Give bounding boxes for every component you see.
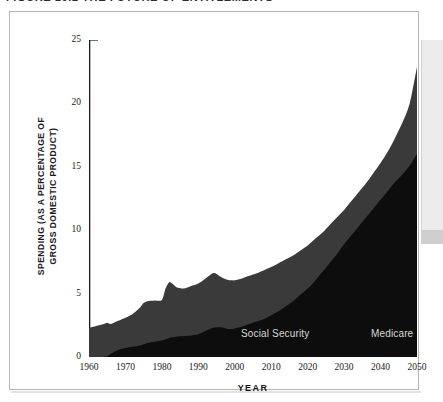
x-tick-label: 2010: [251, 362, 291, 372]
x-tick-label: 2030: [324, 362, 364, 372]
series-label-social-security: Social Security: [241, 328, 309, 339]
series-area-paths: [89, 67, 417, 357]
right-page-panel-shadow: [421, 230, 443, 244]
x-axis-label: YEAR: [89, 383, 417, 393]
y-tick-label: 5: [55, 288, 81, 298]
area-chart-svg: [89, 40, 417, 357]
y-axis-label-line-2: GROSS DOMESTIC PRODUCT): [47, 72, 59, 320]
y-axis-label-line-1: SPENDING (AS A PERCENTAGE OF: [36, 117, 46, 275]
y-axis-label-container: SPENDING (AS A PERCENTAGE OF GROSS DOMES…: [22, 72, 62, 322]
y-tick-label: 15: [55, 161, 81, 171]
x-tick-label: 1960: [69, 362, 109, 372]
plot-area: Social Security Medicare: [89, 40, 417, 357]
y-axis-label: SPENDING (AS A PERCENTAGE OF GROSS DOMES…: [35, 72, 59, 320]
x-tick-label: 2050: [397, 362, 437, 372]
figure-card: SPENDING (AS A PERCENTAGE OF GROSS DOMES…: [9, 11, 419, 390]
x-tick-label: 2040: [361, 362, 401, 372]
series-label-medicare: Medicare: [371, 328, 413, 339]
y-tick-label: 25: [55, 34, 81, 44]
y-tick-label: 20: [55, 97, 81, 107]
screenshot-root: FIGURE 10.2 THE FUTURE OF ENTITLEMENTS S…: [0, 0, 443, 402]
x-tick-label: 2000: [215, 362, 255, 372]
x-tick-label: 1980: [142, 362, 182, 372]
figure-caption-text: FIGURE 10.2 THE FUTURE OF ENTITLEMENTS: [6, 0, 273, 3]
x-tick-label: 2020: [288, 362, 328, 372]
x-tick-label: 1990: [178, 362, 218, 372]
x-tick-label: 1970: [105, 362, 145, 372]
y-tick-label: 0: [55, 351, 81, 361]
right-page-panel: [421, 40, 443, 230]
y-tick-label: 10: [55, 224, 81, 234]
cropped-figure-caption: FIGURE 10.2 THE FUTURE OF ENTITLEMENTS: [6, 0, 306, 5]
